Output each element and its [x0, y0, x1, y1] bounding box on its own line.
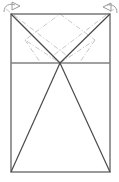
upper-right-diagonal — [60, 14, 110, 63]
lower-right-triangle-leg — [60, 63, 110, 172]
dashdot-right-lower-branch — [80, 40, 95, 62]
right-arrow-tail — [107, 5, 117, 13]
dashdot-construction-group — [6, 9, 114, 63]
right-arrow-head — [103, 3, 111, 11]
frame-group — [11, 14, 110, 172]
lower-left-triangle-leg — [11, 63, 60, 172]
left-arrow-tail — [4, 4, 15, 12]
left-arrowhead-icon — [4, 2, 20, 12]
upper-left-diagonal — [11, 14, 60, 63]
figure-canvas — [0, 0, 119, 182]
arrow-annotations-group — [4, 2, 117, 13]
outer-rectangle — [11, 14, 110, 172]
dashdot-left-lower-branch — [25, 40, 40, 62]
left-arrow-head — [12, 2, 20, 10]
solid-lines-group — [11, 14, 110, 172]
geometric-diagram — [0, 0, 119, 182]
